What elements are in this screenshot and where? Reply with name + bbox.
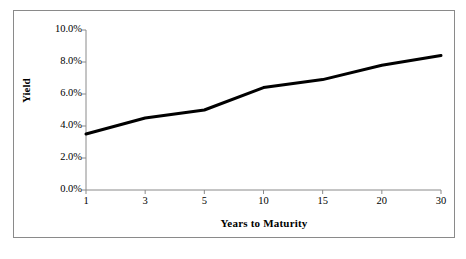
x-axis-tick-label: 1: [71, 195, 101, 206]
x-axis-tick-label: 10: [249, 195, 279, 206]
x-axis-tick-label: 5: [189, 195, 219, 206]
x-axis-tick-label: 20: [367, 195, 397, 206]
x-axis-tick-label: 15: [308, 195, 338, 206]
x-axis-tick-labels: 13510152030: [0, 0, 466, 259]
x-axis-tick-label: 30: [426, 195, 456, 206]
x-axis-tick-label: 3: [130, 195, 160, 206]
